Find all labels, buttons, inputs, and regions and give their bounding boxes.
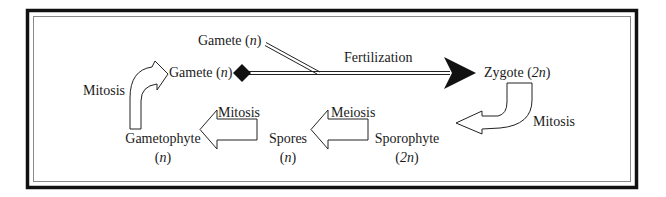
sporophyte-label: Sporophyte xyxy=(375,131,440,147)
mitosis-left-label: Mitosis xyxy=(83,83,125,99)
gamete-left-label: Gamete (n) xyxy=(169,65,232,81)
fertilization-arrowhead-icon xyxy=(444,57,476,89)
life-cycle-diagram: Gamete (n) Fertilization Gamete (n) Zygo… xyxy=(0,0,666,197)
spores-label: Spores xyxy=(269,131,307,147)
fertilization-label: Fertilization xyxy=(344,50,412,66)
mitosis-zygote-arrow-icon xyxy=(456,83,532,134)
mitosis-gametophyte-arrow-icon xyxy=(130,61,168,129)
zygote-label: Zygote (2n) xyxy=(484,65,551,81)
gametophyte-label: Gametophyte xyxy=(125,131,200,147)
gamete-join-line xyxy=(265,43,320,75)
gamete-top-label: Gamete (n) xyxy=(198,33,261,49)
mitosis-zygote-label: Mitosis xyxy=(533,114,575,130)
sporophyte-ploidy: (2n) xyxy=(395,150,418,166)
outer-frame xyxy=(28,11,637,188)
gametophyte-ploidy: (n) xyxy=(155,150,171,166)
meiosis-label: Meiosis xyxy=(331,105,375,121)
spores-ploidy: (n) xyxy=(280,150,296,166)
mitosis-spores-label: Mitosis xyxy=(218,105,260,121)
inner-frame xyxy=(34,17,631,182)
diamond-marker-icon xyxy=(233,64,251,82)
fertilization-line xyxy=(248,72,450,75)
